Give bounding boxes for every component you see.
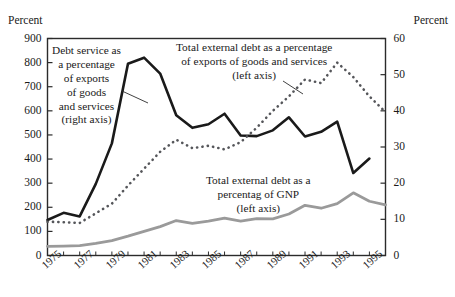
leader-line-debt-service bbox=[122, 91, 148, 103]
right-axis-tick-label: 40 bbox=[394, 104, 424, 116]
left-axis-tick-label: 0 bbox=[12, 249, 42, 261]
annotation-debt-service: Debt service asa percentageof exportsof … bbox=[52, 44, 121, 127]
left-axis-tick-label: 500 bbox=[12, 128, 42, 140]
right-axis-tick-label: 10 bbox=[394, 212, 424, 224]
annotation-total-debt-exports: Total external debt as a percentageof ex… bbox=[176, 41, 332, 83]
annotation-line: Total external debt as a percentage bbox=[176, 41, 332, 55]
right-axis-tick-label: 20 bbox=[394, 176, 424, 188]
annotation-line: a percentage bbox=[52, 58, 121, 72]
left-axis-tick-label: 400 bbox=[12, 152, 42, 164]
annotation-line: Total external debt as a bbox=[206, 174, 311, 188]
left-axis-tick-label: 300 bbox=[12, 176, 42, 188]
annotation-line: and services bbox=[52, 100, 121, 114]
annotation-line: of exports bbox=[52, 72, 121, 86]
right-axis-tick-label: 60 bbox=[394, 32, 424, 44]
annotation-leader-lines bbox=[122, 81, 303, 103]
right-axis-tick-label: 30 bbox=[394, 140, 424, 152]
right-axis-tick-marks bbox=[381, 39, 386, 256]
annotation-line: Debt service as bbox=[52, 44, 121, 58]
left-axis-tick-label: 900 bbox=[12, 32, 42, 44]
right-axis-tick-label: 0 bbox=[394, 249, 424, 261]
left-axis-tick-label: 600 bbox=[12, 104, 42, 116]
annotation-line: (left axis) bbox=[176, 69, 332, 83]
left-axis-tick-label: 200 bbox=[12, 200, 42, 212]
left-axis-unit-label: Percent bbox=[8, 14, 42, 26]
annotation-line: of exports of goods and services bbox=[176, 55, 332, 69]
right-axis-unit-label: Percent bbox=[414, 14, 448, 26]
chart-figure: Percent Percent 010020030040050060070080… bbox=[0, 0, 455, 297]
annotation-line: (right axis) bbox=[52, 113, 121, 127]
left-axis-tick-label: 100 bbox=[12, 224, 42, 236]
left-axis-tick-label: 700 bbox=[12, 80, 42, 92]
annotation-line: of goods bbox=[52, 86, 121, 100]
annotation-line: (left axis) bbox=[206, 202, 311, 216]
annotation-total-debt-gnp: Total external debt as apercentag of GNP… bbox=[206, 174, 311, 216]
left-axis-tick-label: 800 bbox=[12, 56, 42, 68]
annotation-line: percentag of GNP bbox=[206, 188, 311, 202]
right-axis-tick-label: 50 bbox=[394, 68, 424, 80]
